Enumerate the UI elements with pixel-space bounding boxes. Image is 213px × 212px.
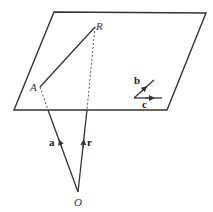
label-R: R (95, 20, 103, 32)
segment-AR (40, 27, 95, 87)
vector-a-hidden (40, 87, 48, 110)
arrow-b (140, 88, 145, 93)
label-a: a (49, 136, 55, 148)
label-A: A (29, 81, 37, 93)
vector-r (78, 110, 87, 192)
arrow-r (83, 142, 84, 148)
vector-plane-diagram: A R O a r b c (0, 0, 213, 212)
vector-r-hidden (87, 27, 95, 110)
vector-a (48, 110, 78, 192)
label-O: O (74, 196, 82, 208)
label-r: r (87, 136, 92, 148)
label-b: b (134, 74, 140, 86)
label-c: c (142, 98, 147, 110)
